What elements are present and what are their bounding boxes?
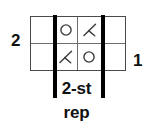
chart-cell-r1c3 [78,17,102,44]
yarn-over-icon [59,23,73,37]
repeat-width-label: 2-st [0,80,153,97]
row-label-left: 2 [11,32,20,49]
chart-cell-r2c1 [31,44,55,71]
row-label-right: 1 [133,52,142,69]
yarn-over-icon [82,50,96,64]
chart-cell-r2c3 [78,44,102,71]
chart-cell-r1c2 [55,17,79,44]
chart-cell-r1c1 [31,17,55,44]
left-leaning-decrease-icon [82,23,97,37]
chart-cell-r2c2 [55,44,79,71]
knitting-chart-diagram: 2 1 [0,0,153,134]
left-leaning-decrease-icon [58,50,73,64]
stitch-grid [30,16,126,71]
repeat-word-label: rep [0,104,153,121]
